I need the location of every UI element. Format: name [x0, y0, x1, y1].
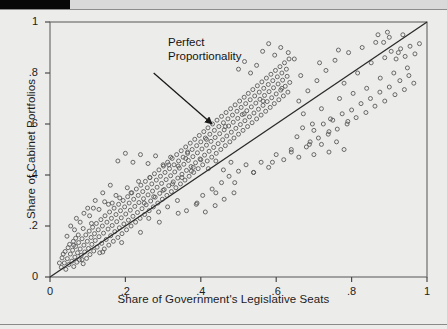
scatter-point [212, 145, 216, 149]
scatter-point [90, 242, 94, 246]
scatter-point [316, 136, 320, 140]
scatter-point [84, 233, 88, 237]
scatter-point [249, 71, 253, 75]
scatter-point [206, 126, 210, 130]
scatter-point [318, 61, 322, 65]
scatter-point [229, 107, 233, 111]
scatter-point [99, 218, 103, 222]
scatter-point [281, 78, 285, 82]
scatter-point [91, 206, 95, 210]
scatter-point [221, 121, 225, 125]
scatter-point [301, 112, 305, 116]
scatter-point [201, 163, 205, 167]
scatter-point [286, 90, 290, 94]
scatter-point [278, 65, 282, 69]
scatter-point [117, 202, 121, 206]
scatter-point [114, 213, 118, 217]
scatter-point [304, 145, 308, 149]
scatter-point [408, 44, 412, 48]
scatter-point [127, 201, 131, 205]
scatter-point [120, 241, 124, 245]
scatter-point [109, 216, 113, 220]
scatter-point [235, 109, 239, 113]
scatter-point [208, 132, 212, 136]
scatter-point [407, 74, 411, 78]
scatter-point [80, 237, 84, 241]
scatter-point [374, 40, 378, 44]
scatter-point [342, 81, 346, 85]
scatter-point [285, 74, 289, 78]
scatter-point [217, 125, 221, 129]
scatter-point [200, 147, 204, 151]
scatter-point [157, 168, 161, 172]
scatter-point [112, 206, 116, 210]
scatter-point [261, 49, 265, 53]
scatter-point [354, 116, 358, 120]
scatter-point [108, 210, 112, 214]
scatter-point [295, 135, 299, 139]
scatter-point [312, 153, 316, 157]
scatter-point [284, 67, 288, 71]
scatter-point [65, 257, 69, 261]
page-header-strip [70, 0, 447, 9]
scatter-point [158, 174, 162, 178]
scatter-point [417, 42, 421, 46]
annotation-line-1: Perfect [168, 35, 242, 49]
scatter-point [282, 61, 286, 65]
scatter-point [270, 160, 274, 164]
scatter-point [228, 140, 232, 144]
scatter-point [333, 58, 337, 62]
scatter-point [396, 51, 400, 55]
scatter-point [364, 111, 368, 115]
scatter-point [137, 201, 141, 205]
scatter-point [218, 132, 222, 136]
scatter-point [232, 191, 236, 195]
scatter-point [319, 142, 323, 146]
scatter-point [126, 218, 130, 222]
scatter-point [392, 71, 396, 75]
scatter-point [413, 52, 417, 56]
scatter-point [103, 214, 107, 218]
scatter-point [87, 229, 91, 233]
scatter-point [237, 169, 241, 173]
scatter-point [184, 168, 188, 172]
scatter-point [164, 178, 168, 182]
annotation-arrow [154, 73, 212, 124]
scatter-point [220, 181, 224, 185]
scatter-point [345, 122, 349, 126]
scatter-point [184, 145, 188, 149]
scatter-point [85, 256, 89, 260]
scatter-point [267, 90, 271, 94]
scatter-point [389, 49, 393, 53]
scatter-point [251, 88, 255, 92]
scatter-point [335, 140, 339, 144]
scatter-point [166, 205, 170, 209]
scatter-point [324, 68, 328, 72]
scatter-point [116, 159, 120, 163]
scatter-point [116, 235, 120, 239]
scatter-point [160, 181, 164, 185]
scatter-point [264, 76, 268, 80]
scatter-point [85, 239, 89, 243]
scatter-point [157, 220, 161, 224]
scatter-point [368, 97, 372, 101]
scatter-point [82, 211, 86, 215]
scatter-point [191, 155, 195, 159]
scatter-point [263, 93, 267, 97]
scatter-point [78, 247, 82, 251]
scatter-point [149, 199, 153, 203]
scatter-point [359, 102, 363, 106]
scatter-point [306, 89, 310, 93]
scatter-point [131, 160, 135, 164]
scatter-point [152, 172, 156, 176]
scatter-point [125, 228, 129, 232]
scatter-point [264, 109, 268, 113]
scatter-point [273, 68, 277, 72]
scatter-point [76, 251, 80, 255]
scatter-point [125, 186, 129, 190]
scatter-point [163, 170, 167, 174]
scatter-point [221, 168, 225, 172]
scatter-point [93, 239, 97, 243]
scatter-point [277, 98, 281, 102]
scatter-point [321, 122, 325, 126]
